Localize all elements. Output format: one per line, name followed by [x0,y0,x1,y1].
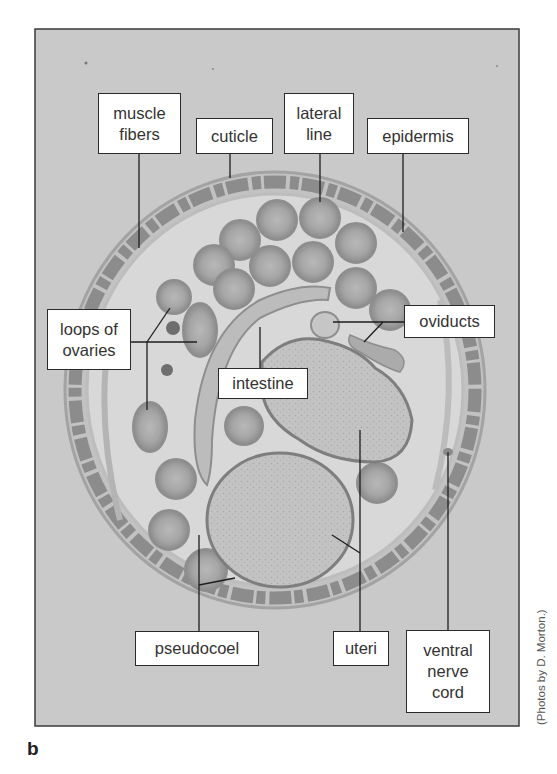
uterus-lower [207,453,353,587]
label-pseudocoel: pseudocoel [135,631,259,666]
label-muscle-fibers: muscle fibers [98,93,181,154]
label-cuticle: cuticle [196,118,273,154]
panel-letter: b [27,738,39,760]
label-uteri: uteri [333,631,389,666]
label-ventral-nerve-cord: ventral nerve cord [406,630,490,713]
label-lateral-line: lateral line [284,93,354,154]
label-intestine: intestine [218,368,308,399]
label-oviducts: oviducts [404,305,495,338]
figure: muscle fibers cuticle lateral line epide… [0,0,557,774]
photo-credit: (Photos by D. Morton.) [535,609,547,725]
label-epidermis: epidermis [367,118,469,154]
label-loops-of-ovaries: loops of ovaries [47,309,131,370]
